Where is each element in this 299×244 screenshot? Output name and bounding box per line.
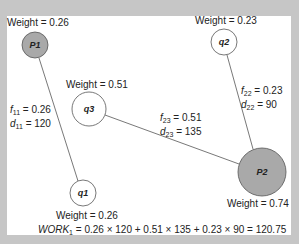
weight-label-q3: Weight = 0.51 xyxy=(66,79,128,90)
distance-value: = 135 xyxy=(176,126,201,137)
distance-value: = 90 xyxy=(257,99,277,110)
weight-label-p2: Weight = 0.74 xyxy=(227,198,289,209)
node-q1-label: q1 xyxy=(68,188,98,198)
node-p1-label: P1 xyxy=(20,40,50,50)
work-formula: WORK1 = 0.26 × 120 + 0.51 × 135 + 0.23 ×… xyxy=(38,224,286,238)
flow-value: = 0.26 xyxy=(23,104,51,115)
distance-value: = 120 xyxy=(26,118,51,129)
distance-subscript: 11 xyxy=(16,123,23,130)
weight-label-q1: Weight = 0.26 xyxy=(56,210,118,221)
edge-label-q2-p2: f22 = 0.23 d22 = 90 xyxy=(241,85,282,113)
node-q3-label: q3 xyxy=(74,104,104,114)
edge-label-p1-q1: f11 = 0.26 d11 = 120 xyxy=(10,104,51,132)
flow-subscript: 22 xyxy=(244,90,252,97)
node-q2-label: q2 xyxy=(209,37,239,47)
weight-label-p1: Weight = 0.26 xyxy=(7,17,69,28)
edge-label-q3-p2: f23 = 0.51 d23 = 135 xyxy=(160,112,201,140)
formula-rhs: = 0.26 × 120 + 0.51 × 135 + 0.23 × 90 = … xyxy=(76,224,286,235)
node-p2-label: P2 xyxy=(247,167,277,177)
flow-value: = 0.51 xyxy=(173,112,201,123)
flow-value: = 0.23 xyxy=(254,85,282,96)
weight-label-q2: Weight = 0.23 xyxy=(195,15,257,26)
formula-lhs-subscript: 1 xyxy=(69,229,73,236)
distance-subscript: 23 xyxy=(166,131,174,138)
flow-subscript: 23 xyxy=(163,117,171,124)
flow-subscript: 11 xyxy=(13,109,20,116)
formula-lhs: WORK xyxy=(38,224,69,235)
distance-subscript: 22 xyxy=(247,104,255,111)
